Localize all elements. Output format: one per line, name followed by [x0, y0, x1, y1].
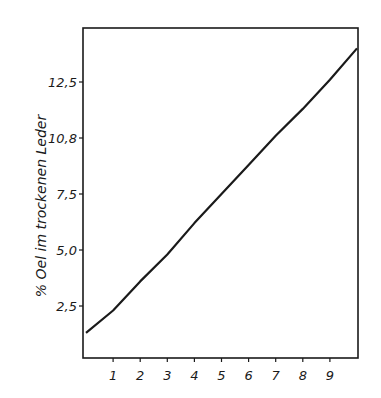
- plot-frame: [83, 28, 358, 358]
- x-tick-label: 2: [136, 368, 144, 383]
- x-tick-label: 8: [299, 368, 307, 383]
- data-line: [86, 48, 357, 333]
- x-tick-label: 4: [190, 368, 198, 383]
- y-tick-label: 2,5: [56, 299, 77, 314]
- y-tick-label: 12,5: [48, 75, 77, 90]
- y-axis-ticks: 2,55,07,510,812,5: [48, 75, 83, 314]
- y-axis-label: % Oel im trockenen Leder: [33, 114, 49, 298]
- x-tick-label: 9: [326, 368, 334, 383]
- x-tick-label: 6: [244, 368, 252, 383]
- x-tick-label: 1: [109, 368, 117, 383]
- line-chart: 2,55,07,510,812,5 123456789 % Oel im tro…: [0, 0, 381, 398]
- x-tick-label: 7: [272, 368, 281, 383]
- x-tick-label: 5: [217, 368, 225, 383]
- y-tick-label: 5,0: [56, 243, 77, 258]
- x-tick-label: 3: [163, 368, 171, 383]
- x-axis-ticks: 123456789: [109, 358, 334, 383]
- y-tick-label: 10,8: [48, 131, 77, 146]
- y-tick-label: 7,5: [56, 187, 77, 202]
